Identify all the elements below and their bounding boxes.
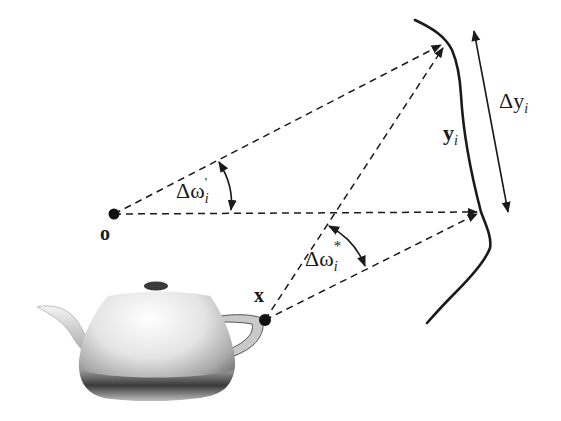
omega-prime-sup: ' [205,174,207,190]
label-delta-y-subscript: i [524,101,528,116]
label-x-text: x [254,284,264,306]
diagram-svg [0,0,561,421]
diagram-canvas: o x yi Δyi Δω'i Δω*i [0,0,561,421]
ray-x-to-top [265,48,443,320]
label-delta-y-base: Δy [499,88,524,113]
label-curve-subscript: i [454,133,458,148]
point-x [259,314,271,326]
label-omega-prime: Δω'i [176,178,209,207]
teapot [37,282,263,402]
label-delta-y: Δyi [499,88,528,117]
ray-o-to-top [114,45,441,214]
ray-o-to-mid [114,212,477,214]
label-o: o [100,222,110,245]
delta-y-arrow [474,31,508,212]
label-x: x [254,284,264,307]
omega-star-subscript: i [334,259,338,274]
omega-prime-subscript: i [205,191,209,206]
omega-star-sup: * [334,238,342,255]
omega-prime-base: Δω [176,178,205,203]
label-curve-base: y [443,120,454,145]
point-o [109,209,120,220]
label-curve-yi: yi [443,120,458,149]
label-o-text: o [100,222,110,244]
label-omega-star: Δω*i [305,246,338,275]
curve-yi [415,20,490,323]
omega-star-base: Δω [305,246,334,271]
angle-arc-omega-prime [219,162,232,210]
teapot-lid-knob [144,282,168,291]
